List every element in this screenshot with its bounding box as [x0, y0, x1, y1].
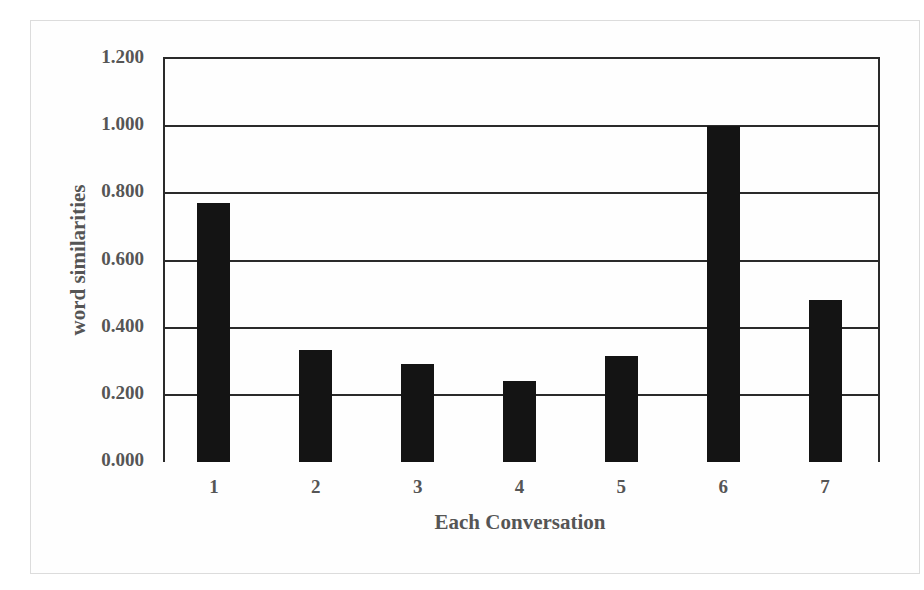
bar-7 — [809, 300, 842, 462]
x-tick-label: 3 — [398, 476, 438, 498]
y-tick-label: 0.400 — [44, 315, 144, 337]
x-axis-label: Each Conversation — [0, 510, 924, 535]
y-tick-label: 0.200 — [44, 382, 144, 404]
x-tick-label: 5 — [601, 476, 641, 498]
x-tick-label: 6 — [703, 476, 743, 498]
bar-3 — [401, 364, 434, 462]
x-tick-label: 4 — [500, 476, 540, 498]
bar-4 — [503, 381, 536, 462]
y-tick-label: 0.800 — [44, 180, 144, 202]
gridline — [165, 192, 878, 194]
plot-area — [163, 57, 880, 462]
y-axis-label: word similarities — [66, 184, 91, 335]
y-tick-label: 0.600 — [44, 248, 144, 270]
bar-5 — [605, 356, 638, 462]
bar-6 — [707, 126, 740, 462]
y-tick-label: 1.000 — [44, 113, 144, 135]
bar-2 — [299, 350, 332, 463]
bar-1 — [197, 203, 230, 462]
gridline — [165, 125, 878, 127]
y-tick-label: 0.000 — [44, 449, 144, 471]
x-tick-label: 1 — [194, 476, 234, 498]
gridline — [165, 327, 878, 329]
y-tick-label: 1.200 — [44, 46, 144, 68]
x-tick-label: 7 — [805, 476, 845, 498]
x-tick-label: 2 — [296, 476, 336, 498]
gridline — [165, 260, 878, 262]
